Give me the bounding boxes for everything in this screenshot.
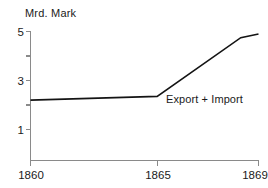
x-tick-label-1860: 1860	[18, 169, 44, 181]
chart-title: Mrd. Mark	[25, 7, 77, 19]
series-annotation-label: Export + Import	[166, 93, 243, 105]
y-tick-label-5: 5	[18, 26, 24, 38]
x-tick-label-1869: 1869	[242, 169, 268, 181]
x-tick-label-1865: 1865	[145, 169, 171, 181]
y-tick-label-3: 3	[18, 75, 24, 87]
series-line-export-import	[31, 34, 259, 100]
chart-container: 5 3 1 1860 1865 1869 Mrd. Mark Export + …	[0, 0, 268, 188]
line-chart: 5 3 1 1860 1865 1869 Mrd. Mark Export + …	[0, 0, 268, 188]
y-tick-label-1: 1	[18, 124, 24, 136]
